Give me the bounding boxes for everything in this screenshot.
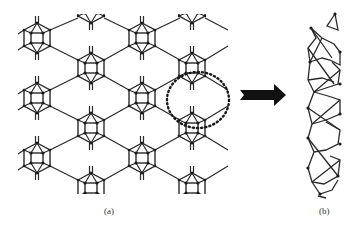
arrow-icon <box>240 84 286 106</box>
panel-a-label: (a) <box>104 206 114 216</box>
panel-b-label: (b) <box>319 206 330 216</box>
figure-canvas <box>0 0 358 229</box>
panel-a-lattice <box>0 0 240 229</box>
panel-b-chain <box>306 12 341 198</box>
